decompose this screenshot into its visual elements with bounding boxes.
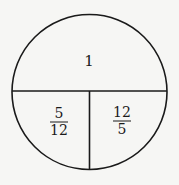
- bottom-right-denominator: 5: [118, 121, 127, 137]
- top-region-label: 1: [84, 52, 94, 70]
- bottom-left-numerator: 5: [55, 105, 64, 121]
- bottom-right-numerator: 12: [113, 104, 131, 120]
- bottom-left-denominator: 12: [50, 122, 68, 138]
- circle-diagram: 1 5 12 12 5: [0, 0, 179, 185]
